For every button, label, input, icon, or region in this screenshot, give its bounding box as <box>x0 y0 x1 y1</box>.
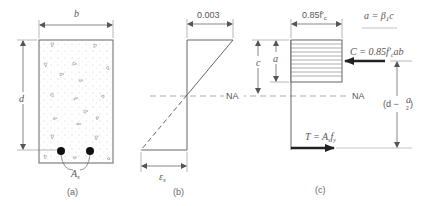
caption-c: (c) <box>315 185 326 195</box>
steel-area-label: As <box>70 168 80 181</box>
compression-label: C = 0.85f′cab <box>350 46 404 58</box>
top-strain-label: 0.003 <box>197 10 220 20</box>
lever-arm-frac-den: 2 <box>406 105 409 111</box>
panel-b-strain: 0.003 εs (b) <box>141 10 233 197</box>
width-label: b <box>74 8 79 19</box>
lever-arm-close: ) <box>410 99 413 109</box>
rebar-right <box>86 147 94 155</box>
lever-arm-label: (d − <box>383 99 399 109</box>
stress-label: 0.85f′c <box>302 10 327 21</box>
neutral-axis-label-c: NA <box>352 91 365 101</box>
strain-line-compression <box>187 40 233 95</box>
a-equation: a = β1c <box>364 10 394 23</box>
caption-b: (b) <box>173 187 184 197</box>
tension-label: T = Asfy <box>305 131 336 143</box>
a-label: a <box>273 53 278 64</box>
panel-c-stress: 0.85f′c a = β1c c a C = 0.85f′cab T = As… <box>252 10 415 195</box>
beam-stress-diagram: As b d (a) NA NA 0.003 εs (b) <box>0 0 425 206</box>
beam-section <box>39 40 113 163</box>
panel-a-cross-section: As b d (a) <box>16 8 113 197</box>
steel-strain-label: εs <box>159 171 166 184</box>
neutral-axis-label-b: NA <box>226 91 239 101</box>
c-label: c <box>256 57 261 68</box>
strain-line-tension <box>141 95 187 150</box>
caption-a: (a) <box>67 187 78 197</box>
rebar-left <box>57 147 65 155</box>
